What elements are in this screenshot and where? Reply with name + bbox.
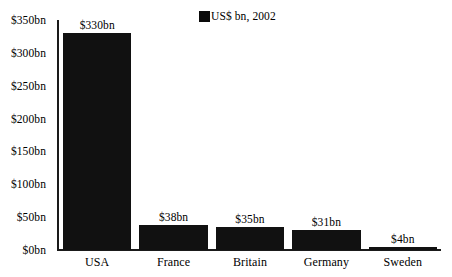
y-axis-tick-label: $150bn <box>11 145 46 157</box>
bar-group: $35bn <box>216 20 284 250</box>
y-axis-tick-label: $350bn <box>11 14 46 26</box>
bar-group: $4bn <box>369 20 437 250</box>
y-axis-tick-label: $250bn <box>11 80 46 92</box>
bar-germany[interactable] <box>292 230 360 250</box>
bar-usa[interactable] <box>63 33 131 250</box>
x-axis-label-britain: Britain <box>212 254 288 270</box>
bar-group: $330bn <box>63 20 131 250</box>
y-axis-tick-label: $300bn <box>11 47 46 59</box>
x-axis-category-labels: USAFranceBritainGermanySweden <box>59 254 441 274</box>
y-axis-tick-labels: $0bn$50bn$100bn$150bn$200bn$250bn$300bn$… <box>0 0 53 277</box>
bar-value-label: $330bn <box>80 19 115 31</box>
y-axis-tick-label: $100bn <box>11 178 46 190</box>
bar-britain[interactable] <box>216 227 284 250</box>
bar-sweden[interactable] <box>369 247 437 250</box>
x-axis-label-usa: USA <box>59 254 135 270</box>
x-axis-label-germany: Germany <box>288 254 364 270</box>
x-axis-label-sweden: Sweden <box>365 254 441 270</box>
bar-value-label: $35bn <box>235 213 264 225</box>
bar-chart: US$ bn, 2002 $0bn$50bn$100bn$150bn$200bn… <box>0 0 452 277</box>
bar-france[interactable] <box>139 225 207 250</box>
y-axis-tick-label: $200bn <box>11 113 46 125</box>
bar-value-label: $4bn <box>391 233 414 245</box>
bar-value-label: $31bn <box>312 216 341 228</box>
bar-group: $31bn <box>292 20 360 250</box>
y-axis-tick-label: $0bn <box>23 244 46 256</box>
bar-group: $38bn <box>139 20 207 250</box>
y-axis-tick-label: $50bn <box>17 211 46 223</box>
bar-value-label: $38bn <box>159 211 188 223</box>
x-axis-label-france: France <box>135 254 211 270</box>
plot-area: $330bn$38bn$35bn$31bn$4bn <box>59 20 441 250</box>
